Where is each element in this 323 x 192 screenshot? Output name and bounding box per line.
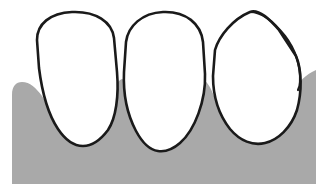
illustration-canvas: [0, 0, 323, 192]
dental-illustration-figure: Anterior teeth with gingiva: [0, 0, 323, 192]
